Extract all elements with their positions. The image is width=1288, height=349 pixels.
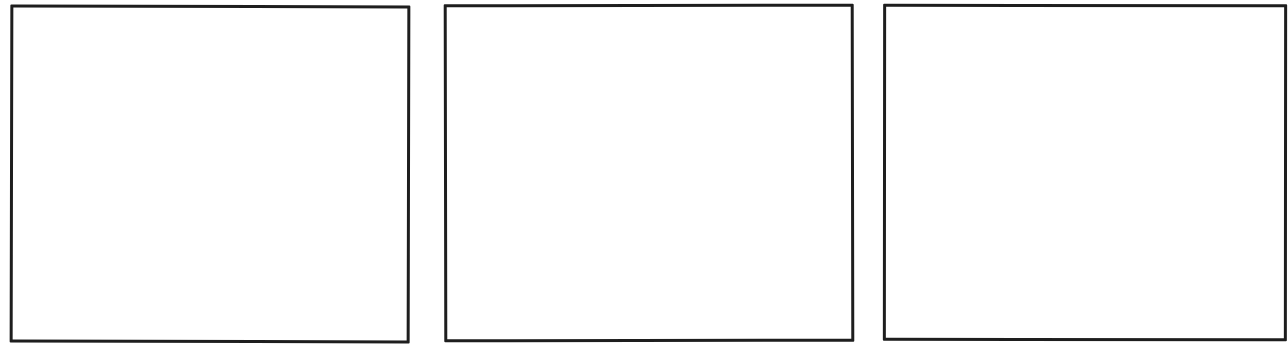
comic-panel-3 <box>883 4 1287 341</box>
comic-panel-1 <box>10 5 411 344</box>
comic-panel-2 <box>444 4 855 343</box>
